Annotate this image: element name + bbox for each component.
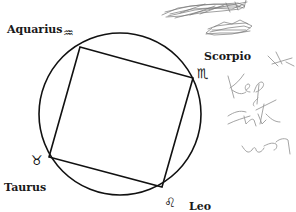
handwritten-note [228,52,294,154]
leo-icon: ♌ [164,196,176,209]
scorpio-icon: ♏ [197,67,209,80]
zodiac-diagram: Aquarius ♒ Scorpio ♏ Taurus ♉ Leo ♌ [0,0,296,212]
sign-label-taurus: Taurus [4,182,46,193]
sign-label-scorpio: Scorpio [204,51,251,62]
taurus-icon: ♉ [31,154,43,167]
scribble-mark [162,0,252,35]
sign-label-aquarius: Aquarius [7,24,63,35]
aquarius-icon: ♒ [63,27,74,39]
inscribed-square [49,47,193,187]
sign-label-leo: Leo [189,201,211,212]
